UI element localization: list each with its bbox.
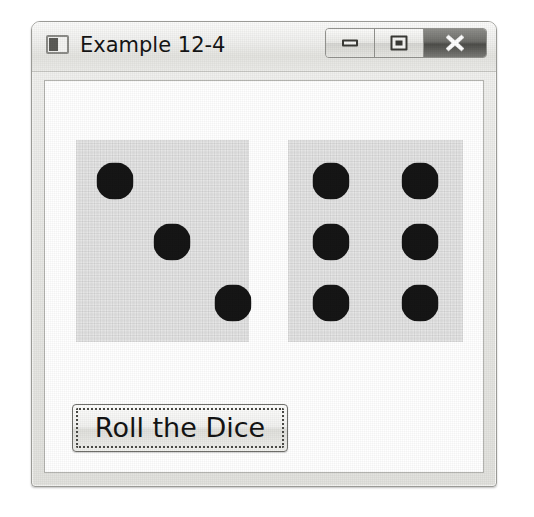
pip xyxy=(214,284,252,322)
roll-the-dice-button[interactable]: Roll the Dice xyxy=(72,404,288,452)
pip xyxy=(312,284,350,322)
die-left xyxy=(76,140,249,342)
minimize-icon xyxy=(342,40,358,47)
die-right xyxy=(288,140,463,342)
pip xyxy=(96,162,134,200)
window-app-icon xyxy=(46,35,69,54)
pip xyxy=(401,223,439,261)
application-window: Example 12-4 Roll the Dice xyxy=(31,21,497,487)
pip xyxy=(153,223,191,261)
form-client-area: Roll the Dice xyxy=(44,80,484,473)
roll-button-label: Roll the Dice xyxy=(73,413,287,443)
close-button[interactable] xyxy=(424,29,486,57)
window-title: Example 12-4 xyxy=(80,33,225,57)
maximize-button[interactable] xyxy=(375,29,424,57)
title-bar[interactable]: Example 12-4 xyxy=(32,22,496,72)
close-x-icon xyxy=(444,32,466,54)
maximize-icon xyxy=(391,36,408,51)
pip xyxy=(401,162,439,200)
minimize-button[interactable] xyxy=(326,29,375,57)
pip xyxy=(312,223,350,261)
pip xyxy=(401,284,439,322)
window-controls xyxy=(325,28,487,58)
pip xyxy=(312,162,350,200)
